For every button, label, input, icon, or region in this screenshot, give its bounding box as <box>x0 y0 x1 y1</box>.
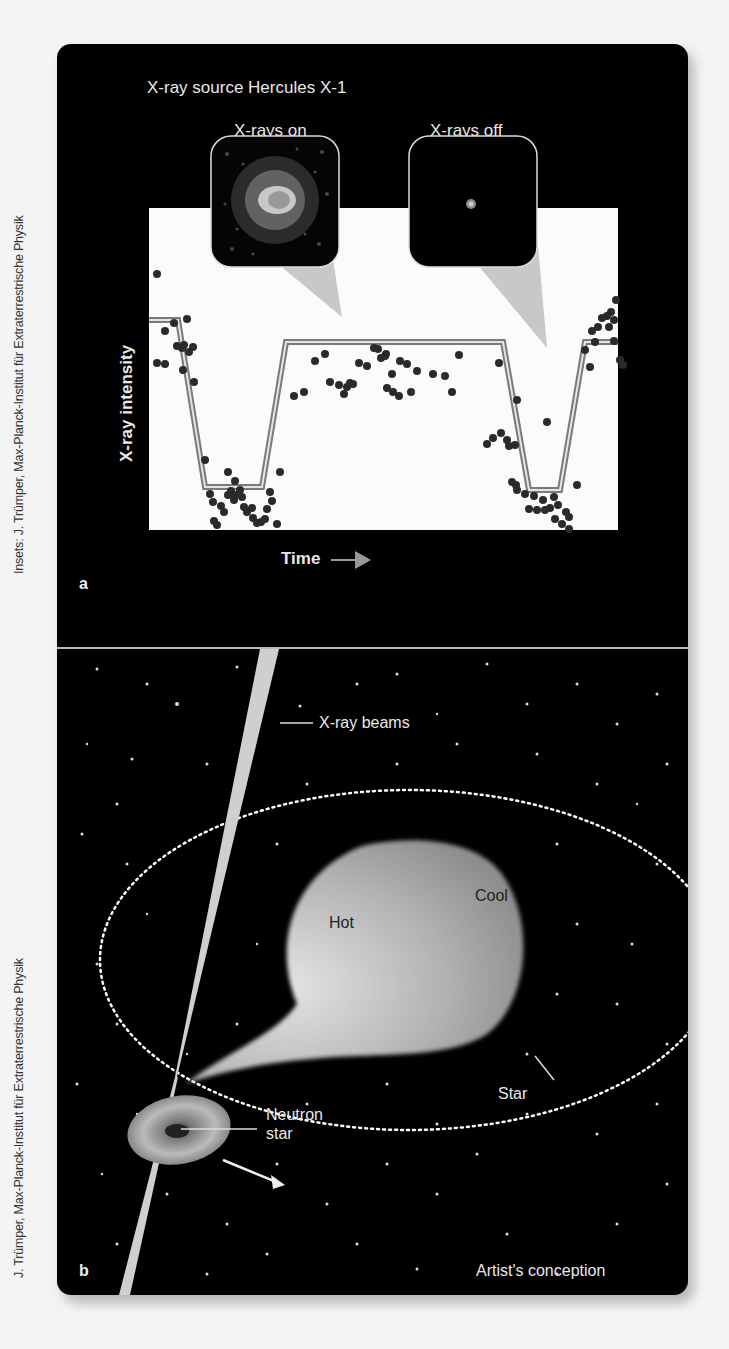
label-hot: Hot <box>329 914 354 932</box>
label-cool: Cool <box>475 887 508 905</box>
credit-insets: Insets: J. Trümper, Max-Planck-Institut … <box>12 215 26 574</box>
label-star: Star <box>498 1085 527 1103</box>
label-xray-beams: X-ray beams <box>319 714 410 732</box>
panel-letter-b: b <box>79 1262 89 1280</box>
xray-beam-upper <box>175 649 279 1077</box>
label-neutron-line2: star <box>266 1124 323 1143</box>
label-neutron-star: Neutron star <box>266 1105 323 1143</box>
label-neutron-line1: Neutron <box>266 1105 323 1124</box>
binary-system-illustration <box>57 44 688 1295</box>
credit-illustration: J. Trümper, Max-Planck-Institut für Extr… <box>12 958 26 1278</box>
donor-star <box>185 840 523 1084</box>
figure-panel: X-ray source Hercules X-1 X-rays on X-ra… <box>57 44 688 1295</box>
caption-artist-conception: Artist's conception <box>476 1262 605 1280</box>
